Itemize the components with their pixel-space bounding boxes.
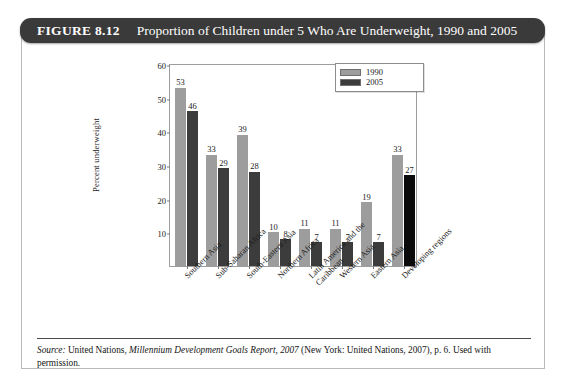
chart-area: Percent underweight 102030405060 5346332… — [22, 32, 546, 324]
bar-value-label: 28 — [250, 162, 259, 171]
bar-value-label: 10 — [269, 223, 278, 232]
y-tick-label-50: 50 — [158, 95, 167, 105]
legend-item-1990: 1990 — [340, 68, 419, 77]
legend-item-2005: 2005 — [340, 78, 419, 87]
figure-card: Percent underweight 102030405060 5346332… — [21, 31, 545, 369]
figure-header-banner: FIGURE 8.12 Proportion of Children under… — [20, 18, 545, 43]
legend-label-2005: 2005 — [366, 78, 383, 87]
bar-value-label: 19 — [362, 193, 371, 202]
bar-1990: 53 — [175, 88, 186, 266]
source-note: Source: United Nations, Millennium Devel… — [37, 344, 533, 371]
bar-value-label: 39 — [238, 125, 247, 134]
bar-value-label: 53 — [176, 78, 185, 87]
legend-label-1990: 1990 — [366, 68, 383, 77]
source-label: Source: — [37, 345, 66, 355]
y-tick-label-30: 30 — [158, 162, 167, 172]
bar-2005: 28 — [249, 172, 260, 266]
bar-value-label: 29 — [219, 159, 228, 168]
bar-group: 5346 — [175, 65, 198, 266]
bar-value-label: 46 — [188, 102, 197, 111]
figure-number: FIGURE 8.12 — [37, 23, 120, 39]
chart-legend: 1990 2005 — [335, 63, 424, 92]
y-axis-title: Percent underweight — [91, 75, 101, 235]
bar-group: 117 — [299, 65, 322, 266]
bar-value-label: 33 — [207, 145, 216, 154]
bar-2005: 46 — [187, 111, 198, 266]
bar-2005: 29 — [218, 168, 229, 266]
source-italic-title: Millennium Development Goals Report, 200… — [129, 345, 299, 355]
y-tick-label-60: 60 — [158, 61, 167, 71]
bar-group: 3327 — [392, 65, 415, 266]
bar-2005: 27 — [404, 175, 415, 266]
bar-value-label: 7 — [376, 233, 380, 242]
bar-value-label: 27 — [405, 166, 414, 175]
bar-value-label: 33 — [393, 145, 402, 154]
legend-swatch-1990-icon — [340, 69, 361, 76]
y-tick-label-40: 40 — [158, 128, 167, 138]
y-tick-label-20: 20 — [158, 196, 167, 206]
bar-group: 3329 — [206, 65, 229, 266]
source-divider — [37, 338, 531, 339]
figure-title: Proportion of Children under 5 Who Are U… — [137, 23, 517, 39]
bar-value-label: 11 — [300, 219, 308, 228]
legend-swatch-2005-icon — [340, 79, 361, 86]
bar-value-label: 11 — [331, 219, 339, 228]
source-text-part1: United Nations, — [66, 345, 130, 355]
y-tick-label-10: 10 — [158, 229, 167, 239]
